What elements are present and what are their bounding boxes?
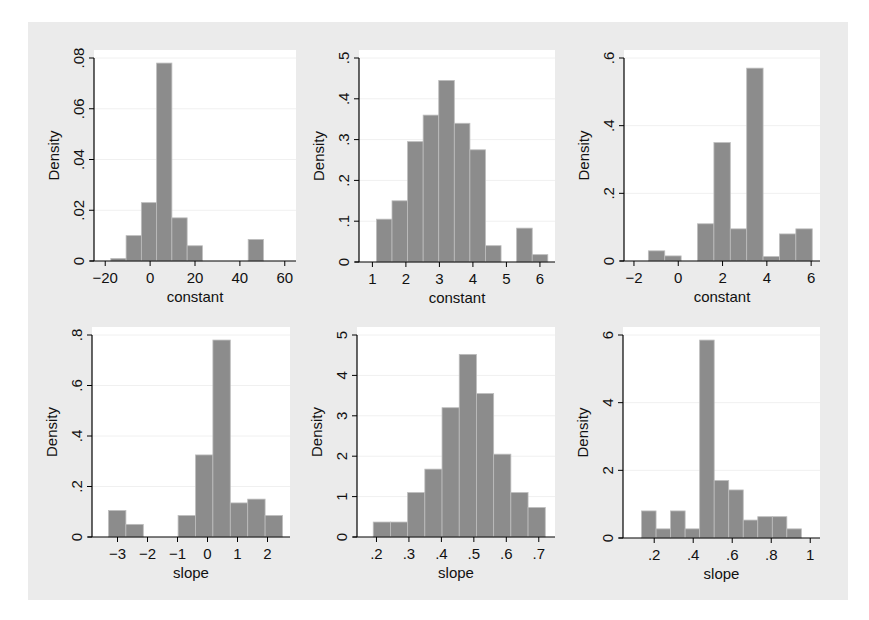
histogram-bar [772,517,787,538]
histogram-bar [265,516,282,537]
histogram-bar [126,236,141,261]
histogram-bar [172,218,187,261]
histogram-panel-5: .2.3.4.5.6.7012345slopeDensity [308,327,555,581]
x-tick-label: 20 [187,269,204,286]
histogram-bar [157,63,172,261]
histogram-bar [454,123,470,262]
x-tick-label: .5 [468,545,481,562]
histogram-bar [698,224,714,261]
histogram-bar [763,257,779,261]
y-tick-label: .4 [68,430,85,443]
histogram-bar [671,511,686,538]
x-tick-label: .2 [370,545,383,562]
x-tick-label: 1 [233,545,241,562]
y-tick-label: 1 [333,492,350,500]
histogram-bar [178,516,195,537]
histogram-bar [656,529,671,538]
y-tick-label: .4 [600,119,617,132]
histogram-bar [665,256,681,261]
y-tick-label: 2 [599,466,616,474]
y-axis-title: Density [575,130,592,181]
histogram-panel-6: .2.4.6.810246slopeDensity [574,327,820,582]
x-tick-label: 2 [718,269,726,286]
y-tick-label: 0 [600,257,617,265]
x-tick-label: 0 [203,545,211,562]
histogram-bar [494,454,511,537]
y-axis-title: Density [45,130,62,181]
y-tick-label: .5 [335,52,352,65]
x-axis-title: constant [167,288,225,305]
x-tick-label: −2 [625,269,642,286]
histogram-bar [517,228,533,262]
y-tick-label: 0 [335,258,352,266]
x-tick-label: 60 [276,269,293,286]
histogram-bar [485,246,501,262]
y-tick-label: 3 [333,412,350,420]
histogram-grid: −2002040600.02.04.06.08constantDensity12… [0,0,869,620]
histogram-bar [196,455,213,537]
x-tick-label: 4 [469,270,477,287]
y-tick-label: 4 [333,371,350,379]
y-tick-label: 0 [599,534,616,542]
histogram-bar [642,511,657,538]
x-axis-title: slope [173,564,209,581]
y-tick-label: .2 [68,480,85,493]
x-tick-label: .8 [765,546,778,563]
histogram-bar [248,239,263,261]
histogram-bar [787,529,802,538]
y-tick-label: .02 [70,200,87,221]
x-tick-label: −2 [139,545,156,562]
histogram-bar [442,408,459,537]
y-tick-label: .08 [70,48,87,69]
x-tick-label: 4 [763,269,771,286]
histogram-panel-3: −202460.2.4.6constantDensity [575,50,820,305]
x-tick-label: −1 [169,545,186,562]
y-axis-title: Density [310,130,327,181]
y-tick-label: .2 [335,174,352,187]
histogram-bar [459,354,476,537]
histogram-bar [248,499,265,537]
x-tick-label: 40 [232,269,249,286]
histogram-bar [700,340,715,538]
x-tick-label: 6 [536,270,544,287]
x-tick-label: 0 [146,269,154,286]
histogram-bar [187,246,202,261]
x-tick-label: .4 [435,545,448,562]
x-tick-label: .6 [500,545,513,562]
x-tick-label: −20 [92,269,117,286]
histogram-bar [511,493,528,537]
y-tick-label: .4 [335,93,352,106]
histogram-bar [126,524,143,537]
histogram-bar [779,234,795,261]
histogram-bar [729,490,744,538]
x-tick-label: 5 [502,270,510,287]
histogram-bar [423,115,439,262]
x-tick-label: −3 [109,545,126,562]
x-tick-label: 1 [368,270,376,287]
histogram-bar [408,493,425,537]
x-axis-title: slope [438,564,474,581]
x-tick-label: 2 [402,270,410,287]
x-axis-title: slope [704,565,740,582]
histogram-bar [743,520,758,538]
histogram-bar [373,522,390,537]
histogram-bar [439,80,455,262]
histogram-panel-4: −3−2−10120.2.4.6.8slopeDensity [43,327,290,581]
histogram-bar [109,510,126,537]
histogram-bar [476,394,493,537]
x-tick-label: .2 [648,546,661,563]
histogram-bar [758,517,773,538]
histogram-panel-2: 1234560.1.2.3.4.5constantDensity [310,50,555,306]
histogram-bar [747,68,763,261]
y-tick-label: .2 [600,187,617,200]
y-tick-label: .3 [335,133,352,146]
y-axis-title: Density [43,406,60,457]
y-tick-label: .6 [600,52,617,65]
histogram-bar [714,143,730,261]
y-tick-label: 4 [599,398,616,406]
y-axis-title: Density [574,407,591,458]
histogram-bar [470,150,486,262]
y-tick-label: 0 [70,257,87,265]
histogram-bar [528,508,545,537]
y-tick-label: .1 [335,215,352,228]
